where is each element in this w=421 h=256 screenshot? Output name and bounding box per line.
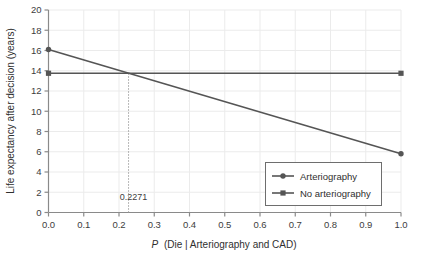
x-axis-tick-label: 0.4 <box>183 219 196 230</box>
legend-marker-square <box>280 190 285 195</box>
y-axis-tick-label: 20 <box>31 4 42 15</box>
y-axis-tick-label: 8 <box>36 126 41 137</box>
series-marker-square <box>46 71 51 76</box>
y-axis-tick-label: 2 <box>36 187 41 198</box>
x-axis-tick-label: 0.1 <box>77 219 90 230</box>
x-axis-tick-label: 0.7 <box>289 219 302 230</box>
x-axis-tick-label: 0.8 <box>324 219 337 230</box>
x-axis-title-italic-p: P <box>151 239 158 250</box>
legend-item-label: Arteriography <box>300 171 357 182</box>
y-axis-tick-label: 18 <box>31 25 42 36</box>
y-axis-tick-label: 10 <box>31 106 42 117</box>
chart-legend[interactable]: ArteriographyNo arteriography <box>266 163 382 206</box>
line-chart: 02468101214161820 0.00.10.20.30.40.50.60… <box>0 0 421 256</box>
series-marker-circle <box>46 47 51 52</box>
chart-background <box>0 0 421 256</box>
y-axis-tick-label: 6 <box>36 146 41 157</box>
series-marker-circle <box>398 151 403 156</box>
x-axis-title: P (Die | Arteriography and CAD) <box>151 239 296 250</box>
x-axis-title-rest: (Die | Arteriography and CAD) <box>164 239 297 250</box>
x-axis-tick-label: 0.6 <box>253 219 266 230</box>
legend-box <box>266 163 382 206</box>
x-axis-tick-label: 0.0 <box>42 219 55 230</box>
chart-figure: 02468101214161820 0.00.10.20.30.40.50.60… <box>0 0 421 256</box>
x-axis-tick-label: 0.9 <box>359 219 372 230</box>
threshold-value-label: 0.2271 <box>120 192 148 202</box>
x-axis-tick-label: 0.5 <box>218 219 231 230</box>
y-axis-tick-label: 16 <box>31 45 42 56</box>
x-axis-tick-label: 1.0 <box>394 219 407 230</box>
legend-item-label: No arteriography <box>300 188 371 199</box>
y-axis-tick-label: 14 <box>31 65 42 76</box>
y-axis-tick-label: 12 <box>31 85 42 96</box>
legend-marker-circle <box>280 173 285 178</box>
series-marker-square <box>398 71 403 76</box>
y-axis-tick-label: 0 <box>36 207 41 218</box>
x-axis-tick-label: 0.2 <box>112 219 125 230</box>
y-axis-tick-label: 4 <box>36 166 41 177</box>
x-axis-tick-label: 0.3 <box>148 219 161 230</box>
y-axis-title: Life expectancy after decision (years) <box>5 28 16 194</box>
